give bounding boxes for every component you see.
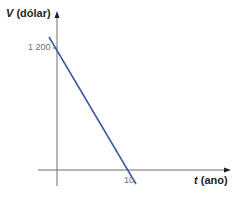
y-tick-label: 1 200 xyxy=(28,42,51,52)
chart-canvas xyxy=(0,0,245,197)
x-tick-label: 10 xyxy=(124,175,134,185)
x-axis-arrow-icon xyxy=(224,168,231,173)
y-axis-arrow-icon xyxy=(55,11,60,18)
x-axis-label: t (ano) xyxy=(194,174,228,186)
y-axis-label: V (dólar) xyxy=(6,7,51,19)
data-line xyxy=(49,37,136,184)
